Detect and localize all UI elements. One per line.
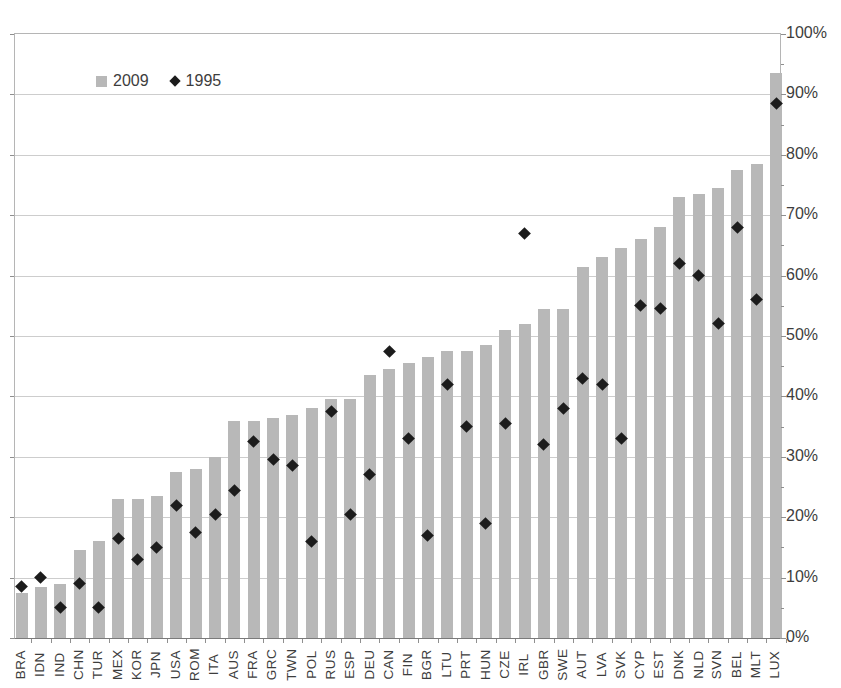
x-axis-label-MEX: MEX	[109, 641, 125, 687]
bar-KOR	[132, 499, 144, 638]
x-axis-label-BGR: BGR	[419, 641, 435, 687]
plot-area	[14, 33, 781, 639]
y-axis-label-10%: 10%	[786, 569, 838, 585]
x-axis-label-EST: EST	[651, 641, 667, 687]
x-axis-label-text-IRL: IRL	[516, 653, 531, 676]
x-axis-label-text-LUX: LUX	[768, 650, 783, 678]
y-axis-left-tick	[10, 276, 14, 277]
y-axis-label-40%: 40%	[786, 387, 838, 403]
x-axis-label-ESP: ESP	[341, 641, 357, 687]
y-axis-tick	[781, 547, 784, 548]
bar-IRL	[519, 324, 531, 638]
y-axis-label-70%: 70%	[786, 206, 838, 222]
y-axis-label-60%: 60%	[786, 267, 838, 283]
bar-MEX	[112, 499, 124, 638]
x-axis-label-DEU: DEU	[361, 641, 377, 687]
bar-TUR	[93, 541, 105, 638]
x-axis-label-text-EST: EST	[652, 650, 667, 678]
x-axis-label-text-RUS: RUS	[323, 649, 338, 679]
x-axis-label-text-MLT: MLT	[748, 650, 763, 678]
x-axis-label-RUS: RUS	[322, 641, 338, 687]
x-axis-label-SVN: SVN	[709, 641, 725, 687]
y-axis-tick	[781, 366, 784, 367]
y-axis-tick	[781, 608, 784, 609]
bar-chart-2009-vs-1995: 2009 1995 0%10%20%30%40%50%60%70%80%90%1…	[0, 0, 841, 688]
x-axis-label-CAN: CAN	[380, 641, 396, 687]
bar-CHN	[74, 550, 86, 638]
bar-CAN	[383, 369, 395, 638]
bar-PRT	[461, 351, 473, 638]
x-axis-label-AUS: AUS	[225, 641, 241, 687]
x-axis-label-text-AUT: AUT	[574, 650, 589, 679]
x-axis-label-text-ESP: ESP	[342, 650, 357, 679]
x-axis-label-text-NLD: NLD	[690, 650, 705, 679]
x-axis-label-text-ITA: ITA	[207, 653, 222, 675]
bar-GBR	[538, 309, 550, 638]
x-axis-label-text-CAN: CAN	[381, 649, 396, 679]
y-axis-left-tick	[10, 517, 14, 518]
y-axis-tick	[781, 306, 784, 307]
x-axis-label-IND: IND	[51, 641, 67, 687]
y-axis-left-tick	[10, 457, 14, 458]
y-axis-label-50%: 50%	[786, 327, 838, 343]
x-axis-label-IDN: IDN	[32, 641, 48, 687]
x-axis-label-text-HUN: HUN	[477, 649, 492, 680]
x-axis-label-LUX: LUX	[767, 641, 783, 687]
bar-USA	[170, 472, 182, 638]
x-axis-label-text-FIN: FIN	[400, 652, 415, 675]
y-axis-left-tick	[10, 578, 14, 579]
x-axis-label-FRA: FRA	[245, 641, 261, 687]
x-axis-label-text-SVN: SVN	[710, 649, 725, 678]
bar-LTU	[441, 351, 453, 638]
x-axis-label-PRT: PRT	[458, 641, 474, 687]
x-axis-label-text-SVK: SVK	[613, 650, 628, 679]
x-axis-label-ITA: ITA	[206, 641, 222, 687]
x-axis-label-MLT: MLT	[748, 641, 764, 687]
x-axis-label-ROM: ROM	[187, 641, 203, 687]
x-axis-label-AUT: AUT	[574, 641, 590, 687]
x-axis-label-DNK: DNK	[670, 641, 686, 687]
bar-BRA	[16, 593, 28, 638]
bar-ITA	[209, 457, 221, 638]
x-axis-label-text-DEU: DEU	[361, 649, 376, 679]
x-axis-label-text-AUS: AUS	[226, 649, 241, 678]
diamond-IRL	[518, 227, 531, 240]
x-axis-label-JPN: JPN	[148, 641, 164, 687]
x-axis-label-text-SWE: SWE	[555, 648, 570, 680]
bar-TWN	[286, 415, 298, 638]
y-axis-left-tick	[10, 34, 14, 35]
legend-label-2009: 2009	[113, 72, 149, 90]
x-axis-label-USA: USA	[167, 641, 183, 687]
bar-FIN	[403, 363, 415, 638]
y-axis-left-tick	[10, 638, 14, 639]
y-axis-tick	[781, 427, 784, 428]
y-axis-label-100%: 100%	[786, 25, 838, 41]
y-axis-label-90%: 90%	[786, 85, 838, 101]
x-axis-label-text-LTU: LTU	[439, 651, 454, 677]
y-axis-tick	[781, 487, 784, 488]
gridline-80	[15, 155, 780, 156]
bar-LVA	[596, 257, 608, 638]
x-axis-label-IRL: IRL	[516, 641, 532, 687]
bar-ROM	[190, 469, 202, 638]
x-axis-label-text-CYP: CYP	[632, 649, 647, 678]
bar-BEL	[731, 170, 743, 638]
x-axis-label-CZE: CZE	[496, 641, 512, 687]
bar-EST	[654, 227, 666, 638]
bar-HUN	[480, 345, 492, 638]
x-axis-label-KOR: KOR	[129, 641, 145, 687]
legend-label-1995: 1995	[186, 72, 222, 90]
x-axis-label-text-LVA: LVA	[594, 651, 609, 676]
y-axis-left-tick	[10, 155, 14, 156]
x-axis-label-text-IDN: IDN	[32, 652, 47, 677]
gridline-90	[15, 94, 780, 95]
x-axis-label-TWN: TWN	[283, 641, 299, 687]
y-axis-left-tick	[10, 336, 14, 337]
bar-BGR	[422, 357, 434, 638]
x-axis-label-text-GRC: GRC	[265, 648, 280, 680]
x-axis-label-text-USA: USA	[168, 649, 183, 678]
x-axis-label-POL: POL	[303, 641, 319, 687]
x-axis-label-BEL: BEL	[728, 641, 744, 687]
x-axis-label-text-GBR: GBR	[535, 649, 550, 680]
legend-diamond-marker-icon	[169, 75, 180, 86]
